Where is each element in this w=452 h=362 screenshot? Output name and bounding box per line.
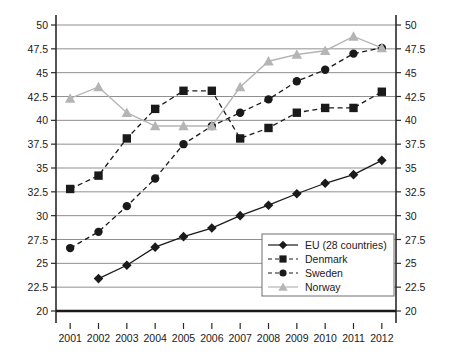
y-axis-left-label: 37.5	[28, 138, 49, 150]
data-point-circle	[66, 244, 74, 252]
chart-canvas: 2022.52527.53032.53537.54042.54547.550 2…	[0, 0, 452, 362]
line-chart: 2022.52527.53032.53537.54042.54547.550 2…	[0, 0, 452, 362]
y-axis-right-label: 22.5	[405, 281, 426, 293]
x-axis-label: 2010	[313, 332, 337, 344]
x-axis-label: 2001	[58, 332, 82, 344]
x-axis-label: 2007	[228, 332, 252, 344]
y-axis-right-label: 40	[405, 114, 417, 126]
data-point-square	[293, 109, 301, 117]
y-axis-right-label: 50	[405, 19, 417, 31]
data-point-square	[378, 88, 386, 96]
data-point-circle	[179, 140, 187, 148]
x-axis-label: 2009	[285, 332, 309, 344]
y-axis-right-label: 30	[405, 210, 417, 222]
data-point-circle	[279, 269, 286, 276]
y-axis-left-label: 42.5	[28, 91, 49, 103]
data-point-circle	[293, 77, 301, 85]
y-axis-left-label: 35	[36, 162, 48, 174]
y-axis-right-label: 37.5	[405, 138, 426, 150]
data-point-square	[179, 87, 187, 95]
data-point-circle	[264, 95, 272, 103]
y-axis-left-label: 32.5	[28, 186, 49, 198]
y-axis-left-label: 27.5	[28, 234, 49, 246]
x-axis-label: 2006	[200, 332, 224, 344]
data-point-circle	[349, 49, 357, 57]
chart-background	[0, 0, 452, 362]
x-axis-label: 2004	[143, 332, 167, 344]
y-axis-left-label: 40	[36, 114, 48, 126]
data-point-square	[264, 124, 272, 132]
x-axis-label: 2008	[257, 332, 281, 344]
data-point-square	[236, 134, 244, 142]
data-point-square	[279, 255, 286, 262]
y-axis-right-label: 35	[405, 162, 417, 174]
y-axis-right-label: 20	[405, 305, 417, 317]
legend-label: EU (28 countries)	[305, 239, 387, 251]
data-point-square	[151, 105, 159, 113]
y-axis-left-label: 30	[36, 210, 48, 222]
data-point-circle	[123, 202, 131, 210]
y-axis-left-label: 47.5	[28, 43, 49, 55]
data-point-square	[123, 134, 131, 142]
y-axis-right-label: 32.5	[405, 186, 426, 198]
x-axis-label: 2005	[172, 332, 196, 344]
data-point-square	[321, 104, 329, 112]
data-point-circle	[151, 174, 159, 182]
data-point-circle	[94, 228, 102, 236]
y-axis-right-label: 27.5	[405, 234, 426, 246]
y-axis-left-label: 50	[36, 19, 48, 31]
data-point-circle	[236, 109, 244, 117]
x-axis-label: 2012	[370, 332, 394, 344]
y-axis-right-label: 42.5	[405, 91, 426, 103]
x-axis-label: 2002	[87, 332, 111, 344]
y-axis-left-label: 25	[36, 257, 48, 269]
chart-legend: EU (28 countries)DenmarkSwedenNorway	[262, 234, 394, 296]
data-point-square	[66, 185, 74, 193]
y-axis-left-label: 22.5	[28, 281, 49, 293]
data-point-circle	[321, 66, 329, 74]
y-axis-right-label: 47.5	[405, 43, 426, 55]
y-axis-left-label: 45	[36, 67, 48, 79]
legend-label: Denmark	[305, 253, 348, 265]
data-point-square	[349, 104, 357, 112]
data-point-square	[208, 87, 216, 95]
x-axis-label: 2003	[115, 332, 139, 344]
legend-label: Norway	[305, 281, 341, 293]
data-point-square	[94, 171, 102, 179]
x-axis-label: 2011	[342, 332, 365, 344]
legend-label: Sweden	[305, 267, 343, 279]
y-axis-left-label: 20	[36, 305, 48, 317]
y-axis-right-label: 45	[405, 67, 417, 79]
y-axis-right-label: 25	[405, 257, 417, 269]
